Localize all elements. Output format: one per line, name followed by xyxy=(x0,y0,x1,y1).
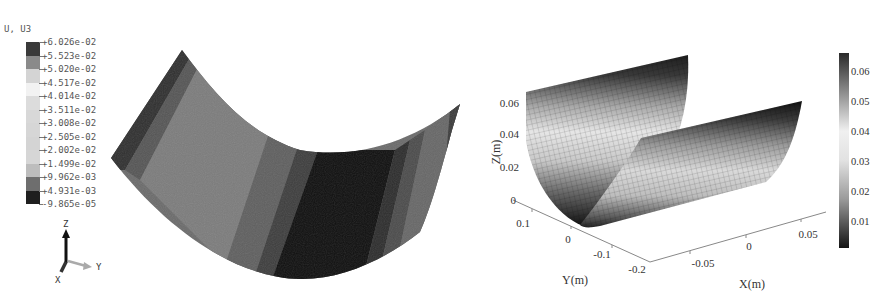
x-tick: 0 xyxy=(746,240,752,252)
z-tick: 0.06 xyxy=(500,97,520,109)
y-tick: 0 xyxy=(565,233,571,245)
x-tick: 0.05 xyxy=(798,228,818,240)
colorbar-tick: 0.05 xyxy=(851,96,869,107)
y-tick: 0.1 xyxy=(516,217,530,229)
axis-triad xyxy=(0,0,480,305)
colorbar-tick: 0.02 xyxy=(851,186,869,197)
y-tick: -0.2 xyxy=(628,263,645,275)
surface-plot: 0.06 0.04 0.02 0 Z(m) 0.1 0 -0.1 -0.2 Y(… xyxy=(480,0,892,305)
x-tick: -0.05 xyxy=(692,257,715,269)
surface-plot-panel: 0.06 0.04 0.02 0 Z(m) 0.1 0 -0.1 -0.2 Y(… xyxy=(480,0,892,305)
x-axis-arrow xyxy=(61,262,66,272)
colorbar-tick: 0.03 xyxy=(851,156,869,167)
fea-contour-panel: U, U3 +6.026e-02 +5.523e-02 +5.020e-02 +… xyxy=(0,0,480,305)
colorbar xyxy=(839,53,849,248)
colorbar-tick: 0.06 xyxy=(851,66,869,77)
triad-y-label: Y xyxy=(96,262,101,272)
z-axis-label: Z(m) xyxy=(489,140,503,165)
colorbar-tick: 0.01 xyxy=(851,216,869,227)
y-axis-label: Y(m) xyxy=(562,273,588,287)
y-tick: -0.1 xyxy=(593,248,610,260)
x-axis-label: X(m) xyxy=(739,277,765,291)
z-tick: 0 xyxy=(511,194,517,206)
triad-x-label: X xyxy=(55,275,60,285)
triad-z-label: Z xyxy=(63,219,68,229)
y-axis-arrow xyxy=(68,261,86,266)
colorbar-tick: 0.04 xyxy=(851,126,870,137)
z-tick: 0.04 xyxy=(500,128,520,140)
